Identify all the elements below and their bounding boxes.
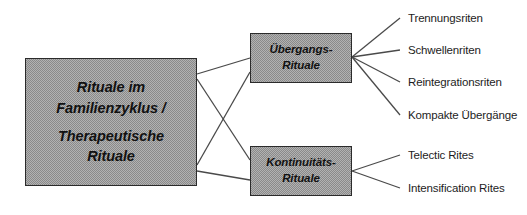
- leaf-label-schwellenriten[interactable]: Schwellenriten: [408, 44, 481, 56]
- edge-root-to-kontinuitaet-lower: [197, 171, 250, 180]
- node-root-line-3: Therapeutische: [58, 128, 164, 144]
- node-uebergangs-rituale[interactable]: Übergangs- Rituale: [250, 33, 352, 83]
- leaf-label-kompakte-uebergaenge[interactable]: Kompakte Übergänge: [408, 109, 517, 121]
- node-uebergangs-rituale-line-1: Übergangs-: [270, 43, 333, 55]
- edge-kontinuitaet-to-leaf-2: [352, 171, 400, 188]
- node-kontinuitaets-rituale-line-2: Rituale: [282, 172, 320, 184]
- edge-uebergang-to-leaf-3: [352, 57, 400, 82]
- leaf-label-intensification-rites[interactable]: Intensification Rites: [408, 182, 505, 194]
- node-root-line-2: Familienzyklus /: [56, 100, 166, 116]
- node-root-line-4: Rituale: [87, 148, 135, 164]
- edge-uebergang-to-leaf-4: [352, 57, 400, 115]
- node-kontinuitaets-rituale[interactable]: Kontinuitäts- Rituale: [250, 146, 352, 196]
- node-uebergangs-rituale-line-2: Rituale: [282, 59, 320, 71]
- leaf-label-trennungsriten[interactable]: Trennungsriten: [408, 12, 483, 24]
- leaf-label-reintegrationsriten[interactable]: Reintegrationsriten: [408, 76, 502, 88]
- diagram-canvas: Rituale im Familienzyklus / Therapeutisc…: [0, 0, 527, 215]
- edge-root-to-uebergang-cross: [197, 72, 250, 165]
- edge-kontinuitaet-to-leaf-1: [352, 155, 400, 171]
- edge-root-to-uebergang-upper: [197, 58, 250, 74]
- node-root-spacer: [56, 119, 166, 126]
- node-kontinuitaets-rituale-line-1: Kontinuitäts-: [266, 156, 336, 168]
- leaf-label-telectic-rites[interactable]: Telectic Rites: [408, 149, 474, 161]
- node-root[interactable]: Rituale im Familienzyklus / Therapeutisc…: [25, 58, 197, 186]
- node-root-line-1: Rituale im: [77, 79, 145, 95]
